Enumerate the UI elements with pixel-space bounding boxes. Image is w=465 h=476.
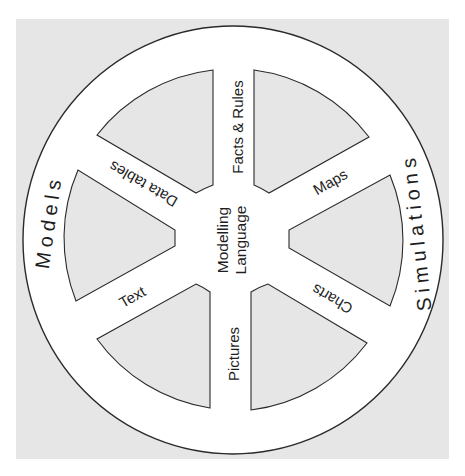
hub-label-line1: Modelling [214,207,231,273]
hub-label-line2: Language [232,206,249,275]
spoke-label-facts-rules: Facts & Rules [229,80,246,173]
spoke-label-pictures: Pictures [225,327,242,381]
wheel-diagram: Modelling Language Facts & Rules Maps Ch… [0,0,465,476]
